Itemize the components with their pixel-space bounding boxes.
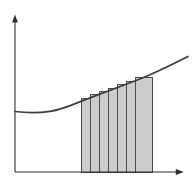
riemann-sum-figure [0,0,192,187]
riemann-rectangle [117,85,126,172]
x-axis-arrowhead [176,169,184,175]
y-axis-arrowhead [12,15,18,23]
riemann-rectangle [135,78,153,173]
figure-svg [0,0,192,187]
riemann-rectangle [90,95,99,172]
riemann-rectangle [81,98,90,172]
riemann-rectangle [108,88,117,172]
riemann-rectangle [99,91,108,172]
riemann-rectangles-group [81,78,153,173]
riemann-rectangle [126,81,135,172]
